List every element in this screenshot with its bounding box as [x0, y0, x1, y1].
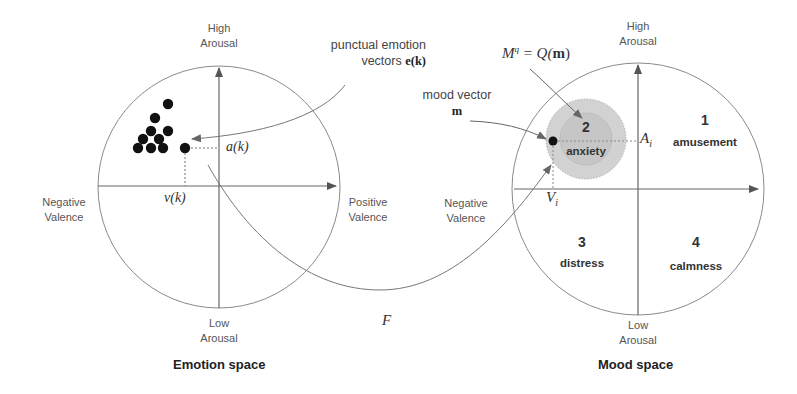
annotation-line: vectors e(k) — [286, 53, 426, 69]
mood-axis-left-label: Negative Valence — [438, 196, 494, 226]
label-line: High — [612, 19, 664, 34]
label-line: Arousal — [193, 331, 245, 346]
mood-axis-top-label: High Arousal — [612, 19, 664, 49]
valence-symbol-v-k: v(k) — [164, 190, 186, 206]
symbol: = Q( — [519, 45, 552, 61]
quadrant-2-number: 2 — [571, 119, 601, 135]
emotion-vector-symbol: e(k) — [405, 54, 426, 68]
quantized-mood-equation: Mq = Q(m) — [502, 44, 570, 62]
symbol: A — [640, 130, 649, 146]
punctual-emotion-annotation: punctual emotion vectors e(k) — [286, 37, 426, 69]
mood-arousal-symbol: Ai — [640, 130, 652, 149]
annotation-line: punctual emotion — [286, 37, 426, 53]
symbol: V — [546, 189, 555, 205]
mood-vector-annotation: mood vector m — [418, 87, 496, 119]
quadrant-3-number: 3 — [567, 234, 597, 250]
emotion-axis-right-label: Positive Valence — [340, 195, 396, 225]
mapping-curve-f — [208, 165, 551, 290]
label-line: Positive — [340, 195, 396, 210]
emotion-axis-left-label: Negative Valence — [36, 195, 92, 225]
mood-vector-symbol: m — [418, 103, 496, 119]
label-line: Valence — [340, 210, 396, 225]
label-line: Arousal — [612, 34, 664, 49]
subscript: i — [555, 197, 558, 208]
annotation-line: mood vector — [418, 87, 496, 103]
mood-region-anxiety — [546, 99, 626, 179]
label-line: Low — [193, 316, 245, 331]
mapping-label-f: F — [382, 312, 391, 329]
label-line: Low — [612, 318, 664, 333]
quadrant-1-number: 1 — [690, 112, 720, 128]
symbol: ) — [565, 45, 570, 61]
arousal-symbol-a-k: a(k) — [226, 139, 249, 155]
emotion-space-caption: Emotion space — [173, 357, 265, 372]
emotion-point-highlighted — [180, 143, 219, 186]
label-line: Negative — [36, 195, 92, 210]
quadrant-4-number: 4 — [681, 234, 711, 250]
emotion-space-axes — [98, 68, 336, 308]
emotion-axis-bottom-label: Low Arousal — [193, 316, 245, 346]
symbol: M — [502, 45, 515, 61]
label-line: Arousal — [193, 36, 245, 51]
label-line: Valence — [438, 211, 494, 226]
symbol: m — [552, 45, 565, 61]
quantized-mood-annotation-arrow — [530, 69, 582, 118]
quadrant-4-name: calmness — [660, 260, 732, 272]
quadrant-3-name: distress — [547, 257, 617, 269]
emotion-points — [133, 99, 173, 153]
label-line: Arousal — [612, 333, 664, 348]
subscript: i — [649, 138, 652, 149]
annotation-text: vectors — [361, 54, 405, 68]
label-line: Negative — [438, 196, 494, 211]
mood-vector-annotation-arrow — [470, 121, 546, 139]
emotion-axis-top-label: High Arousal — [193, 21, 245, 51]
mood-space-caption: Mood space — [598, 357, 673, 372]
mood-valence-symbol: Vi — [546, 189, 558, 208]
quadrant-1-name: amusement — [664, 136, 746, 148]
label-line: Valence — [36, 210, 92, 225]
mood-axis-bottom-label: Low Arousal — [612, 318, 664, 348]
quadrant-2-name: anxiety — [556, 145, 616, 157]
emotion-annotation-arrow — [192, 85, 345, 139]
label-line: High — [193, 21, 245, 36]
